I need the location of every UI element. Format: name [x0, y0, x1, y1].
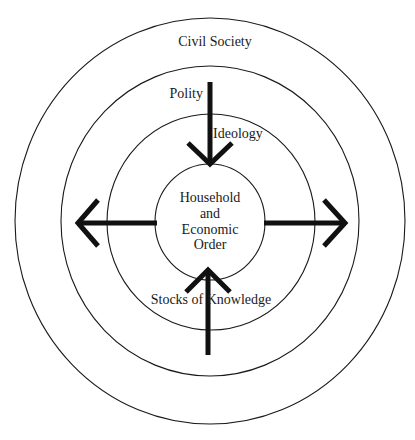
arrow-right-icon [264, 200, 345, 246]
label-ideology: Ideology [213, 126, 263, 141]
concentric-diagram: Civil Society Polity Ideology Household … [0, 0, 415, 440]
arrow-up-icon [186, 270, 230, 355]
label-polity: Polity [170, 86, 203, 101]
arrow-left-icon [78, 200, 157, 246]
label-household-line-2: and [200, 206, 220, 221]
diagram-canvas: Civil Society Polity Ideology Household … [0, 0, 415, 440]
label-civil-society: Civil Society [178, 34, 252, 49]
label-household-line-1: Household [180, 190, 241, 205]
label-stocks-of-knowledge: Stocks of Knowledge [151, 292, 272, 307]
label-household-line-3: Economic [182, 222, 239, 237]
label-household-line-4: Order [194, 237, 227, 252]
